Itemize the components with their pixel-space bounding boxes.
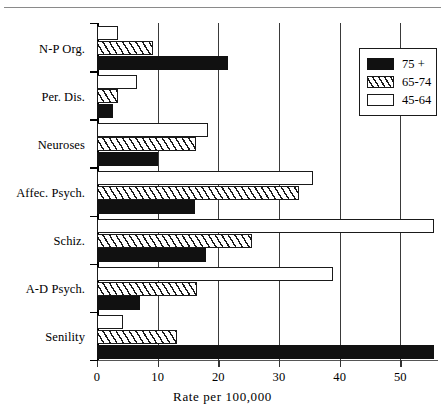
- bar-6-6574[interactable]: [97, 330, 177, 344]
- x-tick-label-10: 10: [151, 370, 164, 385]
- x-tick-30: [279, 360, 280, 367]
- x-tick-label-0: 0: [94, 370, 100, 385]
- bar-3-75+[interactable]: [97, 200, 195, 214]
- legend-label-1: 65-74: [402, 75, 431, 90]
- bar-5-4564[interactable]: [97, 267, 333, 281]
- legend[interactable]: 75 +65-7445-64: [359, 48, 437, 116]
- category-label-5: A-D Psych.: [26, 282, 85, 297]
- bar-6-4564[interactable]: [97, 315, 123, 329]
- bar-2-4564[interactable]: [97, 123, 208, 137]
- legend-label-0: 75 +: [402, 57, 425, 72]
- bar-6-75+[interactable]: [97, 345, 434, 359]
- category-tick-0: [90, 23, 98, 24]
- x-tick-label-30: 30: [273, 370, 286, 385]
- category-tick-1: [90, 71, 98, 72]
- bar-4-4564[interactable]: [97, 219, 434, 233]
- x-tick-label-50: 50: [394, 370, 407, 385]
- top-rule-divider: [4, 7, 441, 8]
- bar-1-4564[interactable]: [97, 75, 137, 89]
- gridline-40: [340, 23, 341, 360]
- bar-0-75+[interactable]: [97, 56, 228, 70]
- category-label-2: Neuroses: [38, 138, 85, 153]
- bar-0-4564[interactable]: [97, 26, 118, 40]
- legend-item-4564[interactable]: 45-64: [367, 93, 431, 107]
- x-axis-line: [91, 360, 438, 361]
- bar-4-75+[interactable]: [97, 248, 206, 262]
- x-tick-50: [400, 360, 401, 367]
- legend-label-2: 45-64: [402, 93, 431, 108]
- category-tick-end: [90, 360, 98, 361]
- bar-2-75+[interactable]: [97, 152, 158, 166]
- category-tick-2: [90, 119, 98, 120]
- bar-0-6574[interactable]: [97, 41, 153, 55]
- legend-swatch-icon-0: [367, 58, 394, 71]
- legend-swatch-icon-2: [367, 94, 394, 107]
- category-tick-6: [90, 312, 98, 313]
- category-label-1: Per. Dis.: [41, 90, 85, 105]
- x-tick-label-20: 20: [212, 370, 225, 385]
- category-label-6: Senility: [45, 330, 85, 345]
- legend-swatch-icon-1: [367, 76, 394, 89]
- category-tick-5: [90, 264, 98, 265]
- category-tick-3: [90, 167, 98, 168]
- x-axis-title: Rate per 100,000: [0, 389, 445, 405]
- legend-item-75+[interactable]: 75 +: [367, 57, 425, 71]
- bar-5-75+[interactable]: [97, 296, 140, 310]
- bar-5-6574[interactable]: [97, 282, 197, 296]
- bar-3-6574[interactable]: [97, 186, 299, 200]
- x-tick-label-40: 40: [333, 370, 346, 385]
- legend-item-6574[interactable]: 65-74: [367, 75, 431, 89]
- bar-4-6574[interactable]: [97, 234, 252, 248]
- category-label-3: Affec. Psych.: [16, 186, 85, 201]
- x-tick-20: [218, 360, 219, 367]
- x-tick-10: [158, 360, 159, 367]
- category-tick-4: [90, 216, 98, 217]
- bar-1-75+[interactable]: [97, 104, 113, 118]
- bar-2-6574[interactable]: [97, 137, 196, 151]
- x-tick-40: [340, 360, 341, 367]
- category-label-4: Schiz.: [54, 234, 86, 249]
- chart-figure: 01020304050 N-P Org.Per. Dis.NeurosesAff…: [0, 0, 445, 414]
- bar-1-6574[interactable]: [97, 89, 118, 103]
- category-label-0: N-P Org.: [39, 42, 85, 57]
- bar-3-4564[interactable]: [97, 171, 313, 185]
